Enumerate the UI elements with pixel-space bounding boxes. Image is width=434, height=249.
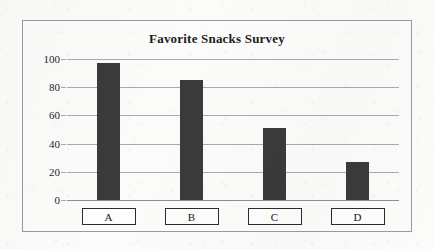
y-axis-tick-label: 0	[55, 194, 61, 206]
y-axis-tick-label: 100	[44, 53, 61, 65]
category-label-b: B	[165, 208, 219, 225]
y-axis-tick-mark	[61, 115, 66, 116]
y-axis-tick-label: 60	[49, 109, 60, 121]
y-axis-tick-label: 80	[49, 81, 60, 93]
y-axis-tick-mark	[61, 172, 66, 173]
y-axis-tick-label: 40	[49, 138, 60, 150]
category-label-d: D	[331, 208, 385, 225]
bar	[97, 63, 120, 200]
gridline	[67, 59, 399, 60]
category-label-c: C	[248, 208, 302, 225]
y-axis-tick-mark	[61, 87, 66, 88]
y-axis-tick-mark	[61, 59, 66, 60]
y-axis-tick-mark	[61, 200, 66, 201]
chart-frame: Favorite Snacks Survey 100806040200 ABCD	[22, 20, 412, 232]
bar	[346, 162, 369, 200]
bar	[263, 128, 286, 200]
plot-area: 100806040200	[67, 59, 399, 200]
y-axis-tick-mark	[61, 144, 66, 145]
category-axis: ABCD	[67, 200, 399, 230]
chart-title: Favorite Snacks Survey	[23, 31, 411, 47]
bar	[180, 80, 203, 200]
y-axis-tick-label: 20	[49, 166, 60, 178]
category-label-a: A	[82, 208, 136, 225]
